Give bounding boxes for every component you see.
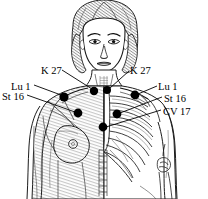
label-lu1-right: Lu 1: [158, 82, 178, 93]
neck: [86, 70, 122, 88]
acupuncture-point-figure: K 27 K 27 Lu 1 St 16 Lu 1 St 16 CV 17: [0, 0, 208, 199]
acupoint-st16-left: [74, 109, 83, 118]
acupoint-cv17: [99, 123, 108, 132]
leader-lu1-left: [34, 85, 61, 95]
label-k27-left: K 27: [41, 66, 62, 77]
right-eye: [108, 40, 120, 44]
acupoint-k27-left: [90, 87, 98, 95]
face: [80, 18, 128, 72]
acupoint-lu1-right: [131, 91, 140, 100]
acupoint-st16-right: [113, 110, 122, 119]
label-st16-right: St 16: [164, 94, 186, 105]
acupoint-lu1-left: [59, 92, 68, 101]
torso-skin-half: [27, 86, 104, 199]
leader-k27-left: [62, 70, 92, 89]
label-k27-right: K 27: [130, 66, 151, 77]
acupoint-k27-right: [103, 86, 111, 94]
left-eye: [89, 40, 101, 44]
label-st16-left: St 16: [2, 92, 24, 103]
label-cv17-right: CV 17: [163, 107, 191, 118]
